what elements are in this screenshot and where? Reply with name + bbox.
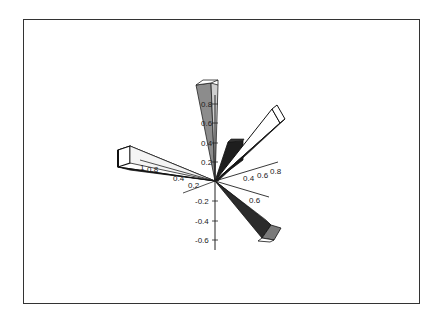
tick-label: 0.2 [201,158,213,167]
axis-vertical: 0.8 0.6 0.4 0.2 -0.2 -0.4 -0.6 [195,95,218,250]
tick-label: 0.8 [270,167,282,176]
tick-label: 0.8 [147,165,159,174]
tick-label: 1 [140,163,145,172]
tick-label: 0.8 [201,100,213,109]
tick-label: 0.6 [201,119,213,128]
tick-label: 0.4 [201,139,213,148]
tick-label: -0.4 [195,217,209,226]
tick-label: -0.2 [195,197,209,206]
tick-label: 0.2 [188,181,200,190]
tick-label: 0.4 [173,174,185,183]
tick-label: 0.4 [243,174,255,183]
3d-bar-plot: 1 0.8 0.4 0.2 0.4 0.6 0.8 0.6 [0,0,443,326]
tick-label: -0.6 [195,236,209,245]
bar-down-right [215,181,281,242]
tick-label: 0.6 [257,171,269,180]
tick-label: 0.6 [249,196,261,205]
